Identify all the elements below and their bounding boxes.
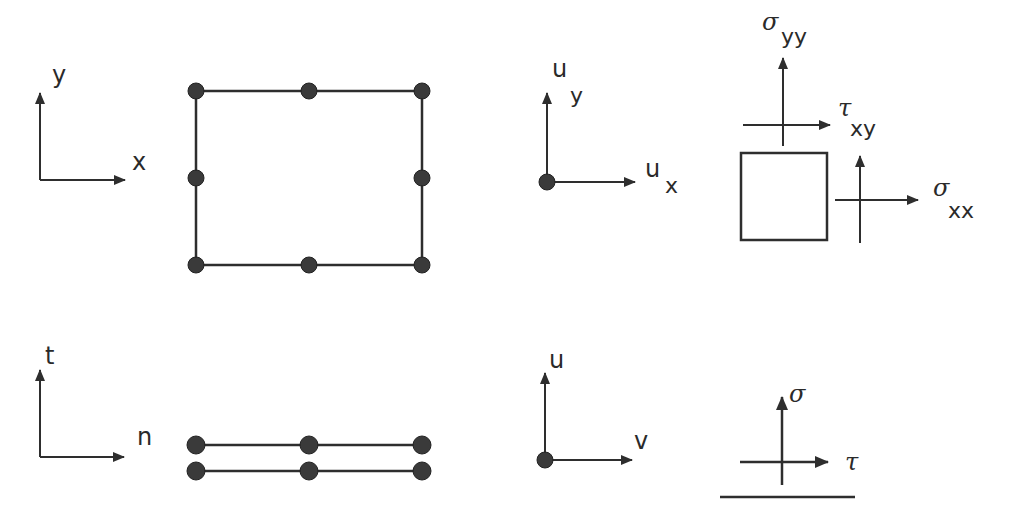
u-label: u [549,346,564,374]
interface-dof: u v [537,346,648,468]
element-boundary [196,91,422,265]
v-label: v [634,427,648,455]
interface-element [187,436,431,480]
node [187,436,205,454]
ux-symbol: u [645,155,660,183]
node [300,462,318,480]
node [413,462,431,480]
global-axes: y x [40,61,146,180]
stress-element-square [741,153,827,240]
uy-symbol: u [552,55,567,83]
node [413,436,431,454]
sigma-yy-subscript: yy [781,24,807,49]
node [301,257,317,273]
uy-subscript: y [570,83,583,108]
n-axis-label: n [137,423,152,451]
tau-label: τ [845,448,859,476]
node [188,83,204,99]
quadrilateral-element [188,83,430,273]
sigma-xx-subscript: xx [948,198,974,223]
node [300,436,318,454]
node [414,257,430,273]
node [187,462,205,480]
tau-xy-subscript: xy [850,116,876,141]
y-axis-label: y [52,61,66,89]
dof-node [537,452,553,468]
sigma-label: σ [789,380,806,408]
ux-subscript: x [665,173,678,198]
continuum-stress: σ yy τ xy σ xx [741,8,974,243]
t-axis-label: t [45,342,54,370]
node [188,257,204,273]
x-axis-label: x [132,148,146,176]
node [414,170,430,186]
node [301,83,317,99]
interface-stress: σ τ [720,380,859,497]
continuum-dof: u y u x [539,55,678,198]
node [188,170,204,186]
node [414,83,430,99]
sigma-yy-symbol: σ [762,8,779,36]
dof-node [539,174,555,190]
local-axes: t n [40,342,152,457]
element-diagram: y x u y u x σ yy τ xy σ xx [0,0,1010,515]
